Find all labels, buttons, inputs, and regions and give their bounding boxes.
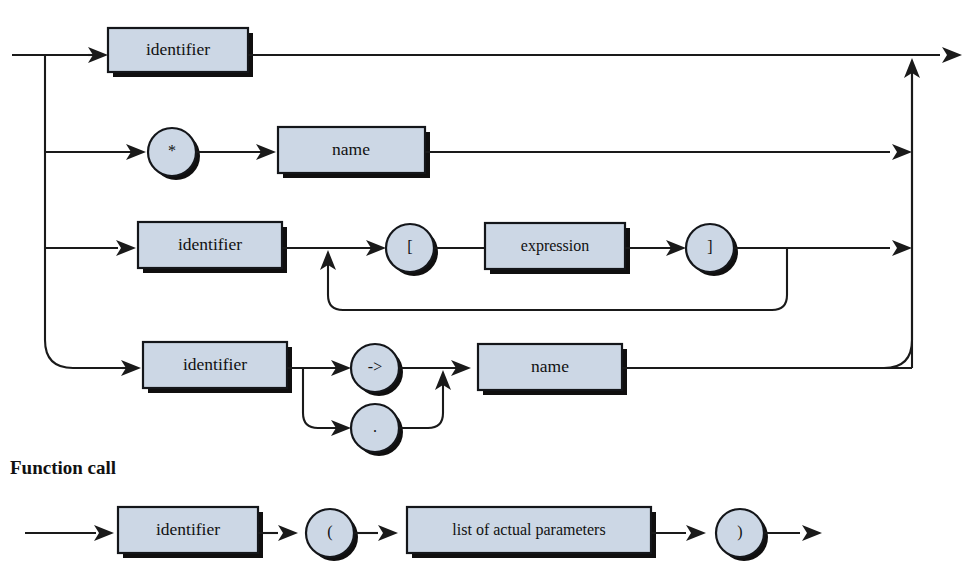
node-label-expression: expression: [521, 237, 589, 255]
branch-row-array-subscript: identifier [ expression ]: [45, 222, 912, 310]
node-label-name-row4: name: [531, 356, 569, 376]
exit-rail-top: [660, 58, 920, 368]
node-label-star: *: [168, 142, 176, 159]
railroad-diagram-svg: identifier * name identifier [ expressio…: [0, 0, 979, 581]
node-label-dot-op: .: [373, 418, 377, 435]
node-label-list-of-actual-parameters: list of actual parameters: [452, 521, 605, 539]
node-label-paren-open: (: [327, 523, 332, 541]
section-heading-function-call: Function call: [10, 457, 116, 478]
branch-row-identifier-plain: identifier: [88, 28, 962, 77]
node-label-arrow-op: ->: [368, 358, 382, 375]
node-label-identifier-row1: identifier: [146, 39, 210, 59]
node-label-identifier-row4: identifier: [183, 354, 247, 374]
node-label-paren-close: ): [737, 523, 742, 541]
branch-row-function-call: identifier ( list of actual parameters ): [25, 507, 822, 561]
node-label-bracket-open: [: [407, 238, 412, 255]
syntax-diagram-canvas: identifier * name identifier [ expressio…: [0, 0, 979, 581]
entry-rail-top: [12, 55, 140, 368]
node-label-name-row2: name: [332, 139, 370, 159]
node-label-identifier-function-call: identifier: [156, 519, 220, 539]
node-label-bracket-close: ]: [707, 238, 712, 255]
branch-row-star-name: * name: [45, 127, 912, 180]
node-label-identifier-row3: identifier: [178, 234, 242, 254]
